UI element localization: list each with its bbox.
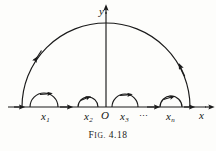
point-label-x3-subscript: 3 — [125, 116, 129, 124]
origin-label: O — [101, 110, 109, 121]
small-semicircle-x3 — [112, 94, 138, 107]
large-arc-arrow-right — [180, 66, 185, 77]
caption-number: 4.18 — [109, 130, 128, 140]
small-semicircle-x3-arc — [112, 94, 138, 107]
point-label-x2: x2 — [84, 111, 93, 122]
ellipsis-label: ⋯ — [139, 112, 149, 121]
small-semicircle-x1 — [30, 93, 58, 107]
caption-smallcaps: IG. — [94, 131, 106, 140]
figure-caption: FIG. 4.18 — [0, 130, 216, 140]
point-label-xn: xn — [166, 111, 175, 122]
contour-diagram — [0, 0, 216, 151]
point-label-x1-subscript: 1 — [46, 116, 50, 124]
small-semicircle-x1-arc — [30, 93, 58, 107]
point-label-x1: x1 — [41, 111, 50, 122]
point-label-xn-subscript: n — [171, 116, 175, 124]
point-label-x3: x3 — [120, 111, 129, 122]
point-label-x2-subscript: 2 — [89, 116, 93, 124]
x-axis-label: x — [199, 110, 204, 121]
small-semicircle-x2 — [78, 97, 98, 107]
figure-container: y x O x1 x2 x3 xn ⋯ FIG. 4.18 — [0, 0, 216, 151]
small-semicircle-x2-arc — [78, 97, 98, 107]
y-axis-label: y — [99, 6, 104, 17]
small-semicircle-xn — [160, 96, 182, 107]
